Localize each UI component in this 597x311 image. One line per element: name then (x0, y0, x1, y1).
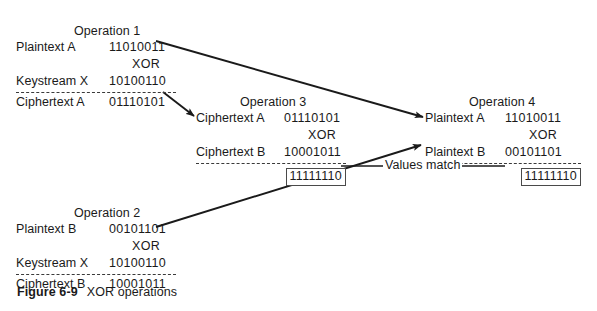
operation-3-operator: XOR (284, 128, 360, 142)
operation-1-operand1-value: 11010011 (109, 40, 183, 54)
operation-2-operand1-label: Plaintext B (16, 222, 109, 236)
operation-4-operand1-row: Plaintext A 11010011 (425, 111, 581, 128)
operation-4-title: Operation 4 (469, 95, 581, 109)
operation-2-dashed-separator (16, 274, 176, 275)
operation-1-operator-row: XOR (16, 57, 183, 74)
operation-4-result-value: 11111110 (521, 168, 581, 186)
operation-3-result-value: 11111110 (286, 168, 346, 186)
operation-1-result-value: 01110101 (109, 95, 183, 109)
operation-3-operand2-value: 10001011 (284, 145, 360, 159)
operation-4-operand2-value: 00101101 (505, 145, 581, 159)
operation-4-operator: XOR (505, 128, 581, 142)
operation-2-operand2-label: Keystream X (16, 256, 109, 270)
operation-4-operator-row: XOR (425, 128, 581, 145)
operation-1-dashed-separator (16, 92, 176, 93)
operation-2-operand1-row: Plaintext B 00101101 (16, 222, 183, 239)
operation-4-operand1-value: 11010011 (505, 111, 581, 125)
operation-3-operator-row: XOR (196, 128, 360, 145)
operation-1-operand1-row: Plaintext A 11010011 (16, 40, 183, 57)
operation-1-operand2-value: 10100110 (109, 74, 183, 88)
operation-2-rows: Plaintext B 00101101 XOR Keystream X 101… (16, 222, 183, 294)
operation-3-operand1-row: Ciphertext A 01110101 (196, 111, 360, 128)
operation-3-title: Operation 3 (240, 95, 360, 109)
figure-caption-label: Figure 6-9 (17, 285, 78, 299)
figure-caption: Figure 6-9XOR operations (17, 285, 177, 299)
operation-1-result-row: Ciphertext A 01110101 (16, 95, 183, 112)
operation-3-operand1-value: 01110101 (284, 111, 360, 125)
operation-block-3: Operation 3 Ciphertext A 01110101 XOR Ci… (196, 95, 360, 186)
operation-4-rows: Plaintext A 11010011 XOR Plaintext B 001… (425, 111, 581, 186)
operation-3-operand1-label: Ciphertext A (196, 111, 284, 125)
operation-block-2: Operation 2 Plaintext B 00101101 XOR Key… (16, 206, 183, 294)
operation-block-1: Operation 1 Plaintext A 11010011 XOR Key… (16, 24, 183, 112)
values-match-annotation: Values match (383, 158, 462, 172)
operation-3-rows: Ciphertext A 01110101 XOR Ciphertext B 1… (196, 111, 360, 186)
operation-1-result-label: Ciphertext A (16, 95, 109, 109)
operation-4-operand2-label: Plaintext B (425, 145, 505, 159)
operation-1-operand2-row: Keystream X 10100110 (16, 74, 183, 91)
operation-2-operand2-row: Keystream X 10100110 (16, 256, 183, 273)
operation-2-operand2-value: 10100110 (109, 256, 183, 270)
figure-canvas: Operation 1 Plaintext A 11010011 XOR Key… (0, 0, 597, 311)
operation-2-title: Operation 2 (74, 206, 183, 220)
operation-1-operand1-label: Plaintext A (16, 40, 109, 54)
operation-1-rows: Plaintext A 11010011 XOR Keystream X 101… (16, 40, 183, 112)
operation-2-operand1-value: 00101101 (109, 222, 183, 236)
operation-3-dashed-separator (196, 163, 346, 164)
operation-2-operator-row: XOR (16, 239, 183, 256)
operation-block-4: Operation 4 Plaintext A 11010011 XOR Pla… (425, 95, 581, 186)
operation-1-operator: XOR (109, 57, 183, 71)
operation-1-title: Operation 1 (74, 24, 183, 38)
operation-3-operand2-label: Ciphertext B (196, 145, 284, 159)
operation-2-operator: XOR (109, 239, 183, 253)
operation-4-operand1-label: Plaintext A (425, 111, 505, 125)
operation-1-operand2-label: Keystream X (16, 74, 109, 88)
operation-3-operand2-row: Ciphertext B 10001011 (196, 145, 360, 162)
operation-3-result-row: 11111110 (196, 166, 346, 186)
figure-caption-text: XOR operations (87, 285, 177, 299)
